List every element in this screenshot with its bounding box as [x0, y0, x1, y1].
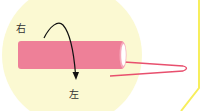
diagram-canvas: 右 左	[0, 0, 202, 111]
tube-opening	[121, 44, 126, 66]
frame-line	[181, 0, 199, 111]
label-right: 右	[16, 24, 26, 34]
illustration	[0, 0, 202, 111]
label-left: 左	[69, 90, 79, 100]
